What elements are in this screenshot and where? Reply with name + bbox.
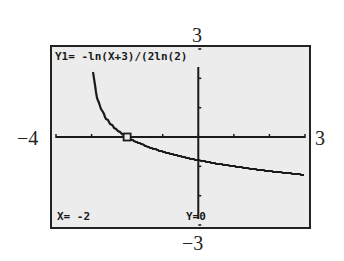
calculator-screen: Y1= -ln(X+3)/(2ln(2) X= -2 Y=0 (50, 45, 311, 229)
xmin-label: −4 (17, 128, 38, 148)
xmax-label: 3 (315, 128, 325, 148)
trace-y-readout: Y=0 (186, 211, 206, 222)
graph-plot (52, 47, 309, 227)
function-label: Y1= -ln(X+3)/(2ln(2) (55, 51, 187, 62)
ymin-label: −3 (182, 233, 203, 253)
trace-x-readout: X= -2 (57, 211, 90, 222)
ymax-label: 3 (192, 25, 202, 45)
trace-cursor[interactable] (124, 134, 131, 141)
